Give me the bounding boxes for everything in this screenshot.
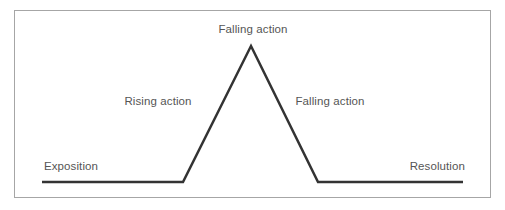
plot-diagram-figure: Falling action Rising action Falling act… bbox=[0, 0, 505, 210]
rising-action-label: Rising action bbox=[124, 96, 191, 108]
exposition-label: Exposition bbox=[44, 161, 98, 173]
story-arc-line bbox=[42, 46, 463, 182]
climax-label: Falling action bbox=[218, 24, 287, 36]
resolution-label: Resolution bbox=[410, 161, 465, 173]
falling-action-label: Falling action bbox=[295, 96, 364, 108]
